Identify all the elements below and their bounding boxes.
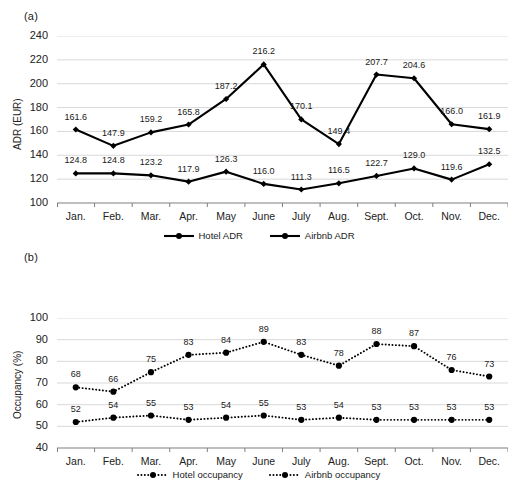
data-point-label: 129.0 <box>388 151 440 160</box>
data-point-label: 87 <box>388 329 440 338</box>
data-point-marker <box>223 350 229 356</box>
legend-item-label: Airbnb occupancy <box>305 469 381 480</box>
x-axis-tick-label: Feb. <box>95 211 133 222</box>
y-axis-tick-label: 140 <box>14 149 48 160</box>
data-point-label: 149.4 <box>313 127 365 136</box>
panel-a-adr: (a) ADR (EUR) Hotel ADRAirbnb ADR 240220… <box>0 0 517 250</box>
y-axis-tick-label: 120 <box>14 173 48 184</box>
data-point-label: 66 <box>87 375 139 384</box>
data-point-marker <box>411 165 417 171</box>
data-point-marker <box>336 180 342 186</box>
x-axis-tick-label: Oct. <box>395 211 433 222</box>
data-point-marker <box>261 181 267 187</box>
data-point-marker <box>110 170 116 176</box>
data-point-marker <box>373 341 379 347</box>
x-axis-tick-label: Jan. <box>57 211 95 222</box>
x-axis-tick-label: Sept. <box>358 211 396 222</box>
data-point-marker <box>449 417 455 423</box>
x-axis-tick-label: Dec. <box>470 456 508 467</box>
data-point-marker <box>261 412 267 418</box>
data-point-marker <box>298 186 304 192</box>
data-point-marker <box>223 415 229 421</box>
data-point-marker <box>486 373 492 379</box>
data-point-marker <box>486 161 492 167</box>
x-axis-tick-label: Jan. <box>57 456 95 467</box>
x-axis-tick-label: Aug. <box>320 211 358 222</box>
data-point-marker <box>73 384 79 390</box>
data-point-label: 84 <box>200 336 252 345</box>
y-axis-tick-label: 90 <box>14 334 48 345</box>
data-point-marker <box>223 169 229 175</box>
data-point-marker <box>411 343 417 349</box>
series-line <box>76 342 489 392</box>
y-axis-tick-label: 80 <box>14 355 48 366</box>
y-axis-tick-label: 50 <box>14 420 48 431</box>
y-axis-tick-label: 40 <box>14 442 48 453</box>
data-point-label: 53 <box>463 403 515 412</box>
panel-b-legend: Hotel occupancyAirbnb occupancy <box>0 469 517 480</box>
figure-two-panel-chart: (a) ADR (EUR) Hotel ADRAirbnb ADR 240220… <box>0 0 517 495</box>
legend-item[interactable]: Airbnb ADR <box>269 230 355 241</box>
y-axis-tick-label: 100 <box>14 312 48 323</box>
data-point-marker <box>449 367 455 373</box>
y-axis-tick-label: 220 <box>14 54 48 65</box>
data-point-marker <box>148 369 154 375</box>
data-point-label: 126.3 <box>200 155 252 164</box>
data-point-label: 75 <box>125 355 177 364</box>
x-axis-tick-label: Feb. <box>95 456 133 467</box>
data-point-marker <box>449 177 455 183</box>
x-axis-tick-label: Apr. <box>170 456 208 467</box>
data-point-label: 78 <box>313 349 365 358</box>
data-point-marker <box>148 129 154 135</box>
x-axis-tick-label: May <box>207 211 245 222</box>
x-axis-tick-label: Dec. <box>470 211 508 222</box>
legend-key-icon <box>163 231 195 241</box>
legend-item-label: Hotel ADR <box>199 230 243 241</box>
x-axis-tick-label: Mar. <box>132 456 170 467</box>
data-point-label: 187.2 <box>200 82 252 91</box>
legend-key-icon <box>137 470 169 480</box>
y-axis-tick-label: 70 <box>14 377 48 388</box>
data-point-marker <box>336 415 342 421</box>
y-axis-tick-label: 200 <box>14 78 48 89</box>
y-axis-tick-label: 160 <box>14 125 48 136</box>
data-point-label: 132.5 <box>463 147 515 156</box>
data-point-label: 73 <box>463 360 515 369</box>
data-point-marker <box>298 352 304 358</box>
data-point-label: 165.8 <box>163 108 215 117</box>
legend-item[interactable]: Hotel ADR <box>163 230 243 241</box>
x-axis-tick-label: July <box>283 211 321 222</box>
data-point-marker <box>148 412 154 418</box>
data-point-marker <box>185 352 191 358</box>
data-point-label: 216.2 <box>238 47 290 56</box>
data-point-marker <box>373 173 379 179</box>
y-axis-tick-label: 60 <box>14 399 48 410</box>
data-point-label: 147.9 <box>87 129 139 138</box>
legend-item[interactable]: Airbnb occupancy <box>269 469 381 480</box>
data-point-label: 170.1 <box>275 102 327 111</box>
x-axis-tick-label: June <box>245 211 283 222</box>
x-axis-tick-label: Nov. <box>433 456 471 467</box>
data-point-marker <box>486 417 492 423</box>
x-axis-tick-label: Mar. <box>132 211 170 222</box>
x-axis-tick-label: Aug. <box>320 456 358 467</box>
data-point-marker <box>373 417 379 423</box>
data-point-marker <box>73 170 79 176</box>
data-point-marker <box>73 419 79 425</box>
data-point-marker <box>411 417 417 423</box>
x-axis-tick-label: Sept. <box>358 456 396 467</box>
y-axis-tick-label: 180 <box>14 102 48 113</box>
legend-item[interactable]: Hotel occupancy <box>137 469 243 480</box>
data-point-label: 89 <box>238 325 290 334</box>
legend-item-label: Hotel occupancy <box>173 469 243 480</box>
panel-b-label: (b) <box>24 251 38 263</box>
x-axis-tick-label: Apr. <box>170 211 208 222</box>
data-point-label: 161.6 <box>50 113 102 122</box>
legend-item-label: Airbnb ADR <box>305 230 355 241</box>
data-point-marker <box>110 143 116 149</box>
panel-b-occupancy: (b) Occupancy (%) Hotel occupancyAirbnb … <box>0 245 517 495</box>
legend-key-icon <box>269 470 301 480</box>
data-point-label: 161.9 <box>463 112 515 121</box>
data-point-label: 204.6 <box>388 61 440 70</box>
data-point-marker <box>298 417 304 423</box>
